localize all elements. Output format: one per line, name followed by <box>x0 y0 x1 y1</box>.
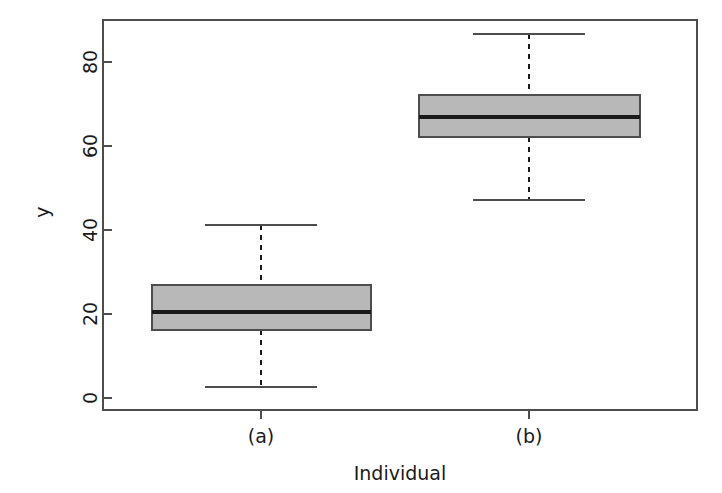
y-axis-title: y <box>31 206 53 217</box>
y-tick-label-0: 0 <box>79 392 101 404</box>
box-body-a <box>152 285 371 330</box>
box-group-a <box>152 225 371 387</box>
frame-rect <box>103 20 697 410</box>
y-tick-label-40: 40 <box>79 218 101 242</box>
x-tick-label-b: (b) <box>516 425 543 447</box>
y-tick-label-60: 60 <box>79 134 101 158</box>
x-axis-title: Individual <box>354 462 447 484</box>
y-tick-label-80: 80 <box>79 50 101 74</box>
y-axis-ticks <box>103 62 112 398</box>
boxplot-figure: 0 20 40 60 80 y <box>0 0 722 493</box>
boxplot-svg: 0 20 40 60 80 y <box>0 0 722 493</box>
box-group-b <box>419 34 640 200</box>
y-tick-label-20: 20 <box>79 302 101 326</box>
x-axis-ticks <box>261 410 529 419</box>
x-tick-label-a: (a) <box>248 425 274 447</box>
plot-frame <box>103 20 697 410</box>
y-axis-tick-labels: 0 20 40 60 80 <box>79 50 101 404</box>
